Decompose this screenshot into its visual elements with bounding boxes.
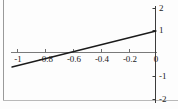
x-tick-label--1: -1 [7,55,29,64]
chart-screenshot: -1 -0.8 -0.6 -0.4 -0.2 0 2 1 -1 -2 [0,0,178,109]
x-tick-label--0.8: -0.8 [33,55,59,64]
y-tick-label-2: 2 [159,4,164,13]
x-tick-label--0.4: -0.4 [89,55,115,64]
x-tick-label--0.6: -0.6 [61,55,87,64]
y-tick-label-1: 1 [159,26,164,35]
y-tick-label--2: -2 [159,95,167,104]
x-tick-label-0: 0 [150,55,162,64]
x-tick-label--0.2: -0.2 [117,55,143,64]
y-tick-label--1: -1 [159,72,167,81]
